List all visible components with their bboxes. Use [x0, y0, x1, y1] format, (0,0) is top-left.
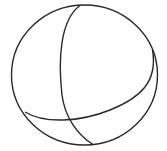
sphere-icon	[0, 0, 167, 151]
equator-arc	[25, 50, 153, 120]
meridian-arc	[60, 6, 93, 145]
sphere-drawing	[0, 0, 167, 151]
sphere-outline	[12, 5, 158, 145]
